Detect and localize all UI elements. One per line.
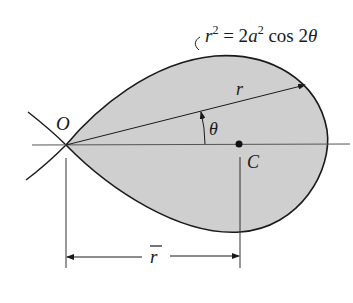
lemniscate-centroid-diagram: r2 = 2a2 cos 2θ O C r θ r bbox=[0, 0, 353, 303]
rbar-label: r bbox=[150, 246, 158, 267]
equation-leader bbox=[195, 37, 200, 50]
centroid-label: C bbox=[247, 152, 260, 172]
left-branch-lower bbox=[26, 145, 66, 180]
theta-label: θ bbox=[209, 119, 218, 139]
origin-label: O bbox=[56, 113, 70, 134]
curve-equation: r2 = 2a2 cos 2θ bbox=[205, 23, 317, 46]
radius-label: r bbox=[236, 79, 244, 99]
centroid-dot bbox=[236, 141, 243, 148]
